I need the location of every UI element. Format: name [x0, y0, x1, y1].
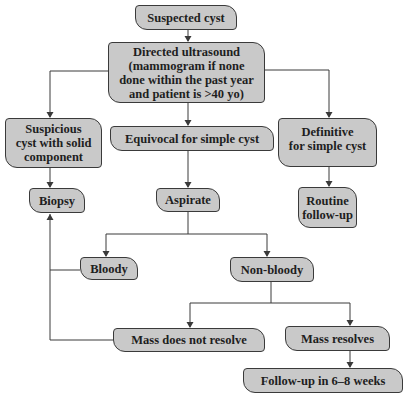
node-routine-follow-up: Routine follow-up — [298, 187, 357, 228]
node-aspirate: Aspirate — [156, 188, 220, 212]
node-label: Follow-up in 6–8 weeks — [261, 374, 386, 388]
node-label: Equivocal for simple cyst — [125, 132, 259, 146]
node-directed-ultrasound: Directed ultrasound (mammogram if none d… — [108, 42, 265, 103]
node-label: Aspirate — [165, 193, 211, 207]
node-label-line: for simple cyst — [289, 139, 367, 153]
node-mass-does-not-resolve: Mass does not resolve — [113, 328, 265, 352]
node-label-line: done within the past year — [119, 73, 254, 87]
node-label: Mass does not resolve — [131, 333, 246, 347]
node-non-bloody: Non-bloody — [230, 257, 314, 282]
node-equivocal: Equivocal for simple cyst — [110, 126, 274, 151]
node-mass-resolves: Mass resolves — [285, 326, 390, 351]
node-label-line: component — [24, 150, 83, 164]
node-label-line: Routine — [306, 194, 348, 208]
node-label-line: follow-up — [302, 208, 353, 222]
node-suspected-cyst: Suspected cyst — [135, 5, 237, 30]
node-definitive: Definitive for simple cyst — [278, 118, 377, 167]
node-label: Biopsy — [39, 194, 75, 208]
node-bloody: Bloody — [80, 257, 138, 280]
node-label-line: (mammogram if none — [129, 59, 245, 73]
node-label: Bloody — [90, 262, 128, 276]
node-label: Non-bloody — [241, 263, 304, 277]
node-label-line: Suspicious — [25, 122, 81, 136]
node-label-line: Definitive — [301, 125, 353, 139]
node-biopsy: Biopsy — [29, 188, 85, 213]
flowchart: Suspected cyst Directed ultrasound (mamm… — [0, 0, 407, 400]
node-label-line: Directed ultrasound — [133, 45, 240, 59]
node-label: Suspected cyst — [147, 11, 224, 25]
node-label: Mass resolves — [301, 332, 374, 346]
node-suspicious-cyst: Suspicious cyst with solid component — [5, 118, 102, 168]
node-follow-up-6-8-weeks: Follow-up in 6–8 weeks — [243, 368, 403, 393]
node-label-line: and patient is >40 yo) — [129, 87, 244, 101]
node-label-line: cyst with solid — [16, 136, 92, 150]
